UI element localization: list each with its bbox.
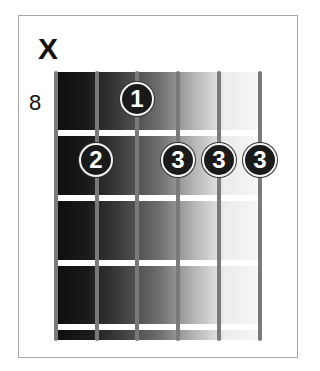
finger-dot: 3 bbox=[202, 143, 236, 177]
string-1 bbox=[258, 71, 262, 341]
fret-line bbox=[56, 195, 262, 201]
string-6 bbox=[54, 71, 58, 341]
string-2 bbox=[217, 71, 221, 341]
fret-line bbox=[56, 260, 262, 266]
start-fret-number: 8 bbox=[29, 91, 41, 115]
finger-dot: 3 bbox=[161, 143, 195, 177]
fret-line bbox=[56, 324, 262, 330]
finger-dot: 1 bbox=[120, 82, 154, 116]
string-5 bbox=[95, 71, 99, 341]
fretboard bbox=[56, 72, 262, 340]
finger-dot: 3 bbox=[243, 143, 277, 177]
muted-string-marker: X bbox=[38, 34, 58, 64]
finger-dot: 2 bbox=[79, 143, 113, 177]
string-3 bbox=[176, 71, 180, 341]
fret-line bbox=[56, 130, 262, 136]
